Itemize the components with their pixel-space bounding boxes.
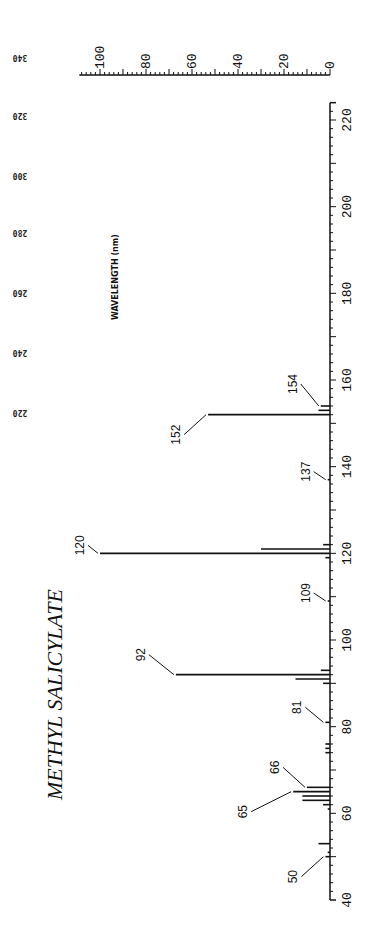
intensity-tick-label: 20 (277, 53, 292, 69)
wavelength-tick-label: 320 (13, 111, 28, 120)
mz-tick-label: 40 (340, 892, 355, 908)
wavelength-axis-title: WAVELENGTH (nm) (111, 234, 120, 320)
mass-spectrum-chart: 340320300280260240220 WAVELENGTH (nm) ME… (0, 0, 379, 949)
intensity-tick-label: 60 (185, 53, 200, 69)
peak-bars (100, 406, 330, 857)
peak-label: 154 (286, 374, 300, 394)
wavelength-tick-label: 300 (13, 171, 28, 180)
mz-tick-label: 60 (340, 806, 355, 822)
intensity-tick-label: 40 (231, 53, 246, 69)
wavelength-tick-label: 240 (13, 348, 28, 357)
wavelength-tick-label: 340 (13, 53, 28, 62)
mz-tick-label: 120 (340, 542, 355, 565)
peak-label: 152 (169, 424, 183, 444)
peak-label: 50 (286, 870, 300, 884)
intensity-axis: 020406080100 (79, 46, 338, 75)
intensity-tick-label: 0 (323, 61, 338, 69)
peak-label: 81 (290, 700, 304, 714)
intensity-tick-label: 80 (139, 53, 154, 69)
peak-label: 120 (73, 535, 87, 555)
peak-label: 65 (236, 805, 250, 819)
peak-label: 92 (134, 648, 148, 662)
wavelength-tick-label: 260 (13, 288, 28, 297)
intensity-tick-label: 100 (93, 46, 108, 69)
peak-label: 66 (268, 760, 282, 774)
mz-tick-label: 100 (340, 628, 355, 651)
wavelength-axis-labels: 340320300280260240220 (13, 53, 28, 417)
chart-title: METHYL SALICYLATE (42, 589, 67, 801)
mz-tick-label: 200 (340, 195, 355, 218)
wavelength-tick-label: 220 (13, 408, 28, 417)
peak-labels: 5065668192109120137152154 (73, 374, 326, 884)
mz-axis: 406080100120140160180200220 (330, 103, 355, 908)
mz-tick-label: 180 (340, 282, 355, 305)
peak-label: 137 (299, 461, 313, 481)
mz-tick-label: 140 (340, 455, 355, 478)
wavelength-tick-label: 280 (13, 228, 28, 237)
mz-tick-label: 220 (340, 108, 355, 131)
peak-label: 109 (299, 583, 313, 603)
mz-tick-label: 160 (340, 368, 355, 391)
mz-tick-label: 80 (340, 719, 355, 735)
